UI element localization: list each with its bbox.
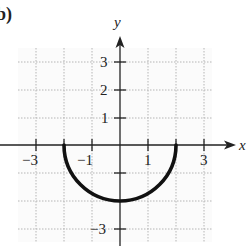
- y-tick-label-neg3: −3: [90, 221, 106, 237]
- x-tick-label-neg3: −3: [22, 152, 38, 168]
- y-tick-label-1: 1: [101, 110, 109, 126]
- y-axis-label: y: [112, 14, 121, 30]
- x-tick-label-3: 3: [200, 152, 208, 168]
- x-tick-label-1: 1: [144, 152, 152, 168]
- y-tick-label-2: 2: [100, 82, 108, 98]
- y-tick-label-3: 3: [100, 54, 108, 70]
- x-tick-label-neg1: −1: [77, 152, 93, 168]
- x-axis-label: x: [238, 137, 246, 153]
- panel-label: b): [0, 4, 12, 25]
- graph: x y −3 −1 1 3 3 2 1 −3 b): [0, 0, 250, 249]
